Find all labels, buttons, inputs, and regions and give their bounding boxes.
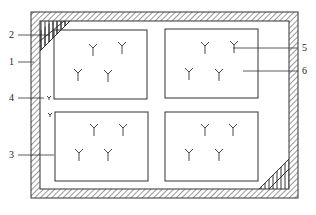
plant-icon xyxy=(104,70,112,82)
corner-ramp-top-left xyxy=(40,21,70,51)
plant-icon xyxy=(74,69,82,81)
plant-icon xyxy=(104,149,112,161)
label-3: 3 xyxy=(9,149,14,160)
bed-bottom-left xyxy=(55,112,148,181)
plant-icon xyxy=(119,124,127,136)
plant-icon xyxy=(118,42,126,54)
beds xyxy=(54,29,258,181)
plant-icon xyxy=(75,149,83,161)
label-1: 1 xyxy=(9,56,14,67)
leader-lines xyxy=(18,35,298,155)
plant-icon-small xyxy=(48,113,52,117)
label-4: 4 xyxy=(9,92,14,103)
diagram-canvas: 2 1 4 3 5 6 xyxy=(0,0,316,215)
plant-icon xyxy=(185,68,193,80)
label-5: 5 xyxy=(302,42,307,53)
plants xyxy=(47,41,238,161)
plant-icon xyxy=(90,124,98,136)
label-6: 6 xyxy=(302,65,307,76)
plant-icon xyxy=(185,149,193,161)
plant-icon xyxy=(229,124,237,136)
plant-icon xyxy=(89,44,97,56)
bed-top-left xyxy=(54,30,147,99)
label-2: 2 xyxy=(9,29,14,40)
plant-icon xyxy=(215,149,223,161)
plant-icon xyxy=(215,69,223,81)
corner-ramp-bottom-right xyxy=(259,159,289,189)
plant-icon-small xyxy=(47,96,51,100)
plant-icon xyxy=(201,124,209,136)
plant-icon xyxy=(230,41,238,53)
bed-top-right xyxy=(165,29,258,98)
diagram-stage: 2 1 4 3 5 6 xyxy=(0,0,316,215)
bed-bottom-right xyxy=(165,112,258,181)
plant-icon xyxy=(201,42,209,54)
